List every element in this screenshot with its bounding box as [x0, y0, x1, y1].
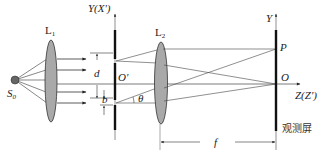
lens-l2 [155, 42, 168, 124]
optical-axis-label: Z(Z') [295, 89, 317, 102]
lens-l1 [45, 40, 57, 122]
point-p-label: P [279, 41, 287, 53]
screen-name-label: 观测屏 [282, 122, 312, 134]
slit-origin-label: O' [118, 71, 129, 83]
angle-arc [133, 97, 134, 103]
angle-label: θ [138, 92, 144, 104]
source-rays [15, 59, 47, 103]
focal-length-label: f [214, 136, 219, 148]
lens-l1-label: L1 [45, 24, 56, 38]
lens-l2-label: L2 [155, 26, 166, 40]
source-label: S0 [7, 87, 17, 101]
screen-origin-label: O [281, 71, 289, 83]
source-point-icon [11, 76, 19, 84]
double-slit-diagram: S0 L1 Y(X') O' d b θ [0, 0, 322, 157]
screen-axis-label: Y [266, 12, 274, 24]
collimated-rays [57, 59, 86, 103]
slit-separation-label: d [94, 67, 100, 79]
slit-width-label: b [102, 93, 108, 105]
focused-rays [163, 49, 276, 101]
slit-axis-label: Y(X') [88, 2, 111, 15]
